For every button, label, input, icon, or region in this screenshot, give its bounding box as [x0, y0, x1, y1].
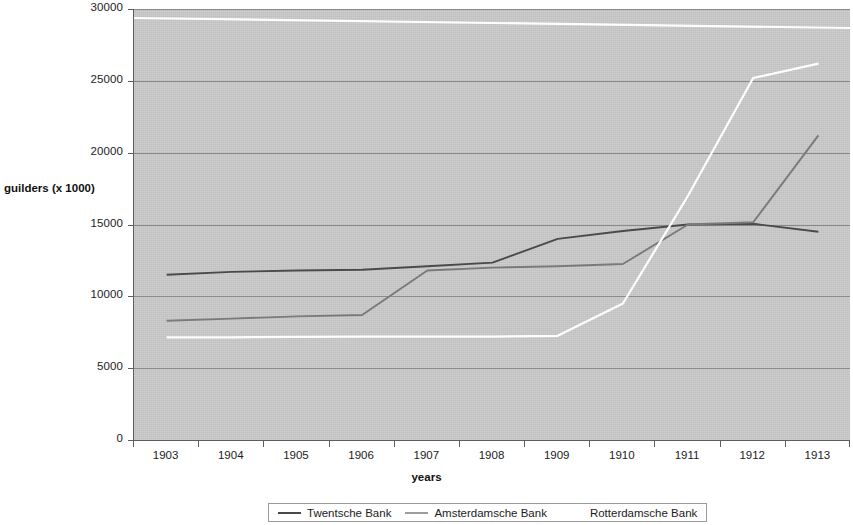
legend-item-amsterdamsche-bank[interactable]: Amsterdamsche Bank [405, 507, 561, 519]
x-tick-mark-1906 [329, 441, 330, 447]
y-tick-mark-30000 [128, 9, 133, 10]
x-tick-label-1905: 1905 [266, 449, 326, 461]
x-tick-label-1908: 1908 [462, 449, 522, 461]
y-tick-label-15000: 15000 [10, 217, 123, 229]
x-tick-mark-1907 [394, 441, 395, 447]
x-tick-label-1912: 1912 [722, 449, 782, 461]
x-tick-label-1910: 1910 [592, 449, 652, 461]
x-tick-mark-1903 [133, 441, 134, 447]
y-tick-mark-5000 [128, 368, 133, 369]
x-tick-label-1903: 1903 [136, 449, 196, 461]
x-tick-label-1904: 1904 [201, 449, 261, 461]
y-tick-label-5000: 5000 [10, 360, 123, 372]
y-tick-mark-15000 [128, 225, 133, 226]
legend-item-rotterdamsche-bank[interactable]: Rotterdamsche Bank [561, 507, 697, 519]
plot-area [133, 9, 850, 440]
y-axis-line [133, 9, 134, 441]
legend-item-twentsche-bank[interactable]: Twentsche Bank [278, 507, 405, 519]
x-tick-label-1907: 1907 [396, 449, 456, 461]
y-tick-label-20000: 20000 [10, 145, 123, 157]
y-tick-mark-10000 [128, 296, 133, 297]
x-tick-mark-1909 [524, 441, 525, 447]
y-tick-mark-20000 [128, 153, 133, 154]
series-line-amsterdamsche-bank [167, 135, 819, 320]
y-tick-label-0: 0 [10, 432, 123, 444]
x-tick-label-1913: 1913 [787, 449, 847, 461]
y-tick-label-30000: 30000 [10, 1, 123, 13]
y-tick-mark-25000 [128, 81, 133, 82]
x-tick-mark-1905 [263, 441, 264, 447]
legend-swatch-icon [278, 512, 301, 514]
y-tick-label-25000: 25000 [10, 73, 123, 85]
x-tick-mark-1912 [720, 441, 721, 447]
legend-swatch-icon [561, 512, 584, 514]
legend-label: Twentsche Bank [307, 507, 391, 519]
x-axis-line [133, 440, 850, 441]
x-axis-title: years [0, 471, 853, 483]
x-tick-mark-1904 [198, 441, 199, 447]
legend-swatch-icon [405, 512, 428, 514]
chart-legend: Twentsche BankAmsterdamsche BankRotterda… [268, 503, 707, 522]
x-tick-mark-1913 [785, 441, 786, 447]
chart-root: 050001000015000200002500030000 190319041… [0, 0, 853, 525]
series-line-rotterdamsche-bank [167, 64, 819, 338]
x-tick-mark-1911 [654, 441, 655, 447]
x-tick-label-1909: 1909 [527, 449, 587, 461]
top-white-rule [134, 18, 850, 28]
x-tick-label-1906: 1906 [331, 449, 391, 461]
x-tick-mark-1910 [589, 441, 590, 447]
x-tick-label-1911: 1911 [657, 449, 717, 461]
legend-label: Rotterdamsche Bank [590, 507, 697, 519]
y-axis-title: guilders (x 1000) [4, 182, 95, 194]
series-lines [134, 9, 850, 440]
x-tick-mark-end [849, 441, 850, 447]
x-tick-mark-1908 [459, 441, 460, 447]
y-tick-label-10000: 10000 [10, 288, 123, 300]
legend-label: Amsterdamsche Bank [434, 507, 547, 519]
